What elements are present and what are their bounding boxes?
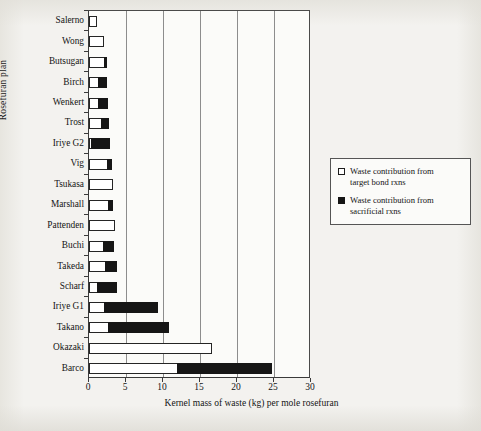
bar-salerno — [89, 16, 97, 27]
legend-item-sacrificial: Waste contribution from sacrificial rxns — [338, 195, 464, 217]
x-axis-tick-label: 10 — [157, 382, 167, 392]
category-label: Iriye G1 — [53, 296, 84, 316]
bar-segment-target-bond — [89, 363, 178, 374]
category-label: Takano — [57, 317, 84, 337]
filled-square-icon — [338, 197, 345, 204]
bar-vig — [89, 159, 112, 170]
bar-segment-target-bond — [89, 322, 109, 333]
category-label: Tsukasa — [54, 174, 84, 194]
legend-label-line2: sacrificial rxns — [350, 206, 401, 216]
category-label: Barco — [62, 358, 84, 378]
gridline — [237, 11, 238, 377]
category-label: Takeda — [57, 256, 84, 276]
gridline — [274, 11, 275, 377]
category-label: Wong — [62, 31, 84, 51]
bar-segment-target-bond — [89, 57, 105, 68]
category-label: Pattenden — [47, 215, 84, 235]
bar-wenkert — [89, 98, 108, 109]
bar-trost — [89, 118, 109, 129]
x-axis-title-text: Kernel mass of waste (kg) per mole rosef… — [165, 398, 339, 408]
x-axis-tick-label: 20 — [231, 382, 241, 392]
bar-buchi — [89, 241, 114, 252]
bar-segment-sacrificial — [101, 118, 109, 129]
bar-okazaki — [89, 343, 212, 354]
bar-segment-target-bond — [89, 159, 108, 170]
legend-label-target-bond: Waste contribution from target bond rxns — [350, 166, 434, 188]
legend-label-sacrificial: Waste contribution from sacrificial rxns — [350, 195, 434, 217]
legend: Waste contribution from target bond rxns… — [330, 158, 471, 225]
bar-segment-target-bond — [89, 261, 106, 272]
bar-segment-sacrificial — [103, 241, 114, 252]
bar-segment-target-bond — [89, 241, 104, 252]
bar-barco — [89, 363, 272, 374]
category-label: Birch — [63, 72, 84, 92]
bar-segment-sacrificial — [108, 200, 113, 211]
bar-takeda — [89, 261, 117, 272]
bar-segment-sacrificial — [98, 77, 108, 88]
plot-area — [88, 10, 310, 378]
bar-tsukasa — [89, 179, 113, 190]
bar-segment-target-bond — [89, 200, 109, 211]
bar-segment-target-bond — [89, 179, 113, 190]
legend-item-target-bond: Waste contribution from target bond rxns — [338, 166, 464, 188]
category-label: Buchi — [62, 235, 84, 255]
x-axis-tick-label: 15 — [194, 382, 204, 392]
bar-marshall — [89, 200, 113, 211]
bar-segment-sacrificial — [104, 302, 158, 313]
bar-segment-target-bond — [89, 16, 97, 27]
bar-segment-target-bond — [89, 343, 212, 354]
bar-butsugan — [89, 57, 107, 68]
category-label: Iriye G2 — [53, 133, 84, 153]
legend-label-line1: Waste contribution from — [350, 166, 434, 176]
legend-label-line2: target bond rxns — [350, 177, 406, 187]
x-axis-tick-label: 0 — [86, 382, 91, 392]
bar-iriye-g2 — [89, 138, 110, 149]
gridline — [200, 11, 201, 377]
bar-segment-target-bond — [89, 36, 104, 47]
category-axis: SalernoWongButsuganBirchWenkertTrostIriy… — [0, 10, 88, 378]
bar-segment-target-bond — [89, 220, 115, 231]
bar-segment-sacrificial — [104, 57, 108, 68]
category-label: Vig — [71, 153, 84, 173]
x-axis: 051015202530 — [88, 378, 310, 396]
bar-pattenden — [89, 220, 115, 231]
x-axis-tick-label: 5 — [123, 382, 128, 392]
bar-segment-sacrificial — [107, 159, 111, 170]
open-square-icon — [338, 168, 345, 175]
bar-segment-sacrificial — [98, 98, 108, 109]
bar-segment-sacrificial — [108, 322, 169, 333]
bar-scharf — [89, 282, 117, 293]
bar-segment-sacrificial — [105, 261, 117, 272]
category-label: Okazaki — [53, 337, 84, 357]
bar-wong — [89, 36, 104, 47]
category-label: Trost — [65, 112, 84, 132]
bar-segment-sacrificial — [97, 282, 117, 293]
bar-iriye-g1 — [89, 302, 158, 313]
legend-label-line1: Waste contribution from — [350, 195, 434, 205]
x-axis-title: Kernel mass of waste (kg) per mole rosef… — [0, 398, 481, 408]
category-label: Wenkert — [53, 92, 84, 112]
category-label: Butsugan — [49, 51, 84, 71]
x-axis-tick-label: 25 — [268, 382, 278, 392]
bar-segment-sacrificial — [177, 363, 272, 374]
figure-page: Rosefuran plan SalernoWongButsuganBirchW… — [0, 0, 481, 431]
category-label: Marshall — [51, 194, 84, 214]
bar-segment-sacrificial — [91, 138, 110, 149]
bar-segment-target-bond — [89, 302, 105, 313]
category-label: Scharf — [60, 276, 84, 296]
bar-birch — [89, 77, 107, 88]
x-axis-tick-label: 30 — [305, 382, 315, 392]
bar-takano — [89, 322, 169, 333]
category-label: Salerno — [56, 10, 84, 30]
